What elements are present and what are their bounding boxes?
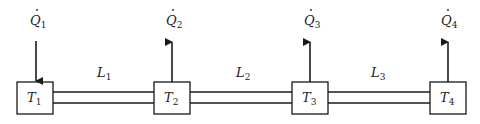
pipe-segment-l2 (190, 92, 292, 103)
svg-text:Q1: Q1 (30, 13, 46, 30)
segment-label-l2: L2 (235, 65, 250, 82)
segment-label-l3: L3 (370, 65, 386, 82)
pipe-segment-l1 (53, 92, 154, 103)
svg-text:Q2: Q2 (166, 13, 182, 30)
heat-label-q1: Q1 (30, 9, 46, 30)
pipe-segment-l3 (328, 92, 430, 103)
svg-text:Q3: Q3 (304, 13, 321, 30)
svg-text:Q4: Q4 (441, 13, 458, 30)
heat-label-q4: Q4 (441, 9, 458, 30)
heat-label-q3: Q3 (304, 9, 321, 30)
segment-label-l1: L1 (96, 65, 111, 82)
pipeline-diagram: Q1 Q2 Q3 Q4 L1 L2 L3 T1 T2 T3 T4 (0, 0, 480, 124)
heat-label-q2: Q2 (166, 9, 182, 30)
